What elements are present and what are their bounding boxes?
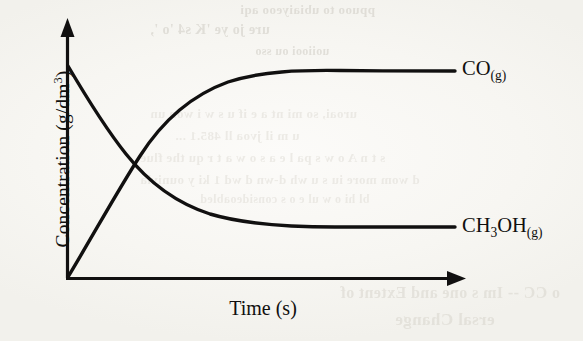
series-label-co: CO(g) xyxy=(462,58,506,79)
curve-co xyxy=(68,70,455,277)
series-label-co-state: (g) xyxy=(490,68,506,83)
x-axis-label: Time (s) xyxy=(188,297,338,320)
concentration-vs-time-figure: Concentration (g/dm3) Time (s) CO(g) CH3… xyxy=(0,0,583,341)
series-label-methanol: CH3OH(g) xyxy=(462,215,543,236)
plot-area xyxy=(0,0,583,341)
curve-methanol xyxy=(68,66,455,227)
series-label-co-base: CO xyxy=(462,57,490,79)
y-axis-label-exponent: 3 xyxy=(51,77,65,83)
y-axis-label-text: Concentration (g/dm xyxy=(52,84,73,248)
series-label-methanol-base-b: OH xyxy=(497,214,527,236)
y-axis-label-tail: ) xyxy=(52,71,73,78)
y-axis-label: Concentration (g/dm3) xyxy=(52,34,74,284)
series-label-methanol-state: (g) xyxy=(527,225,543,240)
series-label-methanol-base-a: CH xyxy=(462,214,490,236)
x-axis-arrowhead-icon xyxy=(447,271,466,286)
